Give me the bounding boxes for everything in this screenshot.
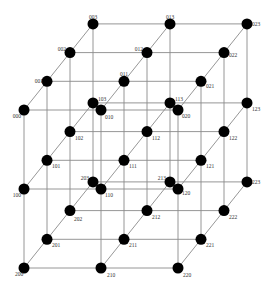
node-label: 101 <box>52 163 61 169</box>
lattice-edge <box>178 160 201 189</box>
lattice-edge <box>201 53 224 82</box>
lattice-node-003 <box>88 18 99 29</box>
lattice-node-210 <box>96 263 107 274</box>
node-label: 022 <box>229 52 238 58</box>
lattice-node-121 <box>196 155 207 166</box>
lattice-node-021 <box>196 76 207 87</box>
lattice-node-222 <box>219 205 230 216</box>
lattice-edge <box>147 182 170 211</box>
node-label: 213 <box>158 175 167 181</box>
node-label: 012 <box>135 46 144 52</box>
node-label: 121 <box>206 163 215 169</box>
lattice-node-012 <box>142 47 153 58</box>
lattice-node-221 <box>196 234 207 245</box>
lattice-node-113 <box>165 97 176 108</box>
node-label: 223 <box>252 179 261 185</box>
lattice-node-001 <box>42 76 53 87</box>
lattice-node-022 <box>219 47 230 58</box>
lattice-edge <box>201 211 224 240</box>
node-label: 102 <box>75 135 84 141</box>
lattice-node-223 <box>242 176 253 187</box>
node-label: 222 <box>229 214 238 220</box>
lattice-node-220 <box>173 263 184 274</box>
node-label: 212 <box>152 214 161 220</box>
lattice-edge <box>224 182 247 211</box>
lattice-node-111 <box>119 155 130 166</box>
lattice-edge <box>178 239 201 268</box>
node-label: 113 <box>175 96 183 102</box>
lattice-node-212 <box>142 205 153 216</box>
node-label: 020 <box>182 113 191 119</box>
node-label: 201 <box>52 242 61 248</box>
lattice-edge <box>101 160 124 189</box>
lattice-node-213 <box>165 176 176 187</box>
node-label: 200 <box>15 271 24 277</box>
node-label: 111 <box>129 163 137 169</box>
node-label: 003 <box>89 14 98 20</box>
node-label: 110 <box>105 192 113 198</box>
node-label: 023 <box>252 21 261 27</box>
lattice-edge <box>70 24 93 53</box>
lattice-edge <box>147 103 170 132</box>
lattice-node-202 <box>65 205 76 216</box>
lattice-edge <box>47 211 70 240</box>
lattice-node-023 <box>242 18 253 29</box>
node-label: 202 <box>74 216 83 222</box>
lattice-node-103 <box>88 97 99 108</box>
lattice-edge <box>101 239 124 268</box>
node-label: 122 <box>229 135 238 141</box>
lattice-node-112 <box>142 126 153 137</box>
node-label: 100 <box>13 192 22 198</box>
lattice-edge <box>224 103 247 132</box>
lattice-edge <box>24 239 47 268</box>
lattice-edge <box>201 132 224 161</box>
lattice-node-102 <box>65 126 76 137</box>
lattice-edge <box>124 211 147 240</box>
node-label: 001 <box>35 78 44 84</box>
lattice-node-101 <box>42 155 53 166</box>
lattice-node-002 <box>65 47 76 58</box>
lattice-node-201 <box>42 234 53 245</box>
lattice-node-122 <box>219 126 230 137</box>
node-label: 120 <box>182 190 191 196</box>
lattice-edge <box>47 53 70 82</box>
node-label: 221 <box>206 242 215 248</box>
node-label: 210 <box>107 272 116 278</box>
lattice-node-203 <box>88 176 99 187</box>
lattice-edge <box>224 24 247 53</box>
lattice-edge <box>47 132 70 161</box>
node-label: 000 <box>13 113 22 119</box>
lattice-edge <box>24 160 47 189</box>
lattice-edge <box>124 132 147 161</box>
lattice-svg: 0000010020030100110120130200210220231001… <box>0 0 278 289</box>
lattice-edge <box>70 103 93 132</box>
node-label: 203 <box>81 175 90 181</box>
node-label: 010 <box>105 114 114 120</box>
lattice-edge <box>24 81 47 110</box>
node-label: 011 <box>120 71 128 77</box>
lattice-edges <box>24 24 247 268</box>
node-label: 220 <box>183 272 192 278</box>
node-label: 013 <box>166 14 175 20</box>
node-label: 211 <box>129 242 137 248</box>
lattice-node-211 <box>119 234 130 245</box>
lattice-node-123 <box>242 97 253 108</box>
node-label: 021 <box>206 83 215 89</box>
node-label: 112 <box>152 135 160 141</box>
lattice-diagram: 0000010020030100110120130200210220231001… <box>0 0 278 289</box>
lattice-node-011 <box>119 76 130 87</box>
node-label: 123 <box>252 106 261 112</box>
lattice-edge <box>70 182 93 211</box>
lattice-node-013 <box>165 18 176 29</box>
lattice-edge <box>147 24 170 53</box>
node-label: 103 <box>98 96 107 102</box>
node-label: 002 <box>58 46 67 52</box>
